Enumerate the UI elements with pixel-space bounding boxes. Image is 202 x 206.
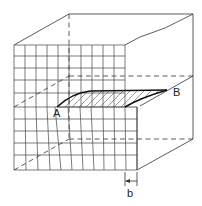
label-a: A xyxy=(53,107,61,119)
label-burgers-vector: b xyxy=(127,187,133,199)
label-b: B xyxy=(173,86,180,98)
top-face xyxy=(14,14,193,45)
front-grid-lower xyxy=(14,107,137,170)
dislocation-diagram: A B b xyxy=(0,0,202,206)
burgers-vector xyxy=(125,172,137,186)
arrow-head-icon xyxy=(125,179,130,183)
